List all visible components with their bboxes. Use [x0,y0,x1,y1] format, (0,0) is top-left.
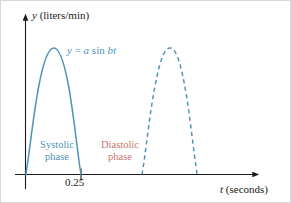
diastolic-phase-label: Diastolic phase [91,139,149,163]
y-axis-units: (liters/min) [40,9,90,21]
systolic-phase-label: Systolic phase [30,139,84,163]
equation-bt: bt [107,44,116,56]
systolic-phase-line2: phase [30,151,84,163]
plot-canvas [1,1,291,203]
diastolic-phase-line2: phase [91,151,149,163]
next-pulse-curve-dashed [142,48,197,175]
equation-sin: sin [89,44,107,56]
systolic-phase-line1: Systolic [30,139,84,151]
figure-container: y (liters/min) t (seconds) 0.25 y = a si… [0,0,291,203]
y-axis-label: y (liters/min) [32,9,89,21]
equation-equals: = [72,44,84,56]
x-axis-units: (seconds) [226,183,268,195]
equation-label: y = a sin bt [67,44,116,56]
x-axis-label: t (seconds) [220,183,268,195]
x-tick-label-025: 0.25 [65,176,84,188]
diastolic-phase-line1: Diastolic [91,139,149,151]
